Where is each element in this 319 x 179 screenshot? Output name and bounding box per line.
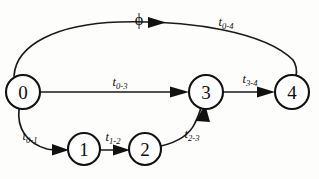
edge-label-1-2: t1-2 bbox=[106, 130, 122, 146]
edge-1-2-arrowhead bbox=[113, 145, 130, 156]
edge-label-3-4: t3-4 bbox=[243, 72, 259, 88]
edge-label-0-3: t0-3 bbox=[113, 75, 128, 91]
edge-label-0-4-sub: 0-4 bbox=[222, 21, 234, 31]
edge-3-4-arrowhead bbox=[257, 87, 275, 98]
edge-0-4-arrowhead bbox=[148, 17, 166, 28]
edge-0-1-arrowhead bbox=[52, 144, 69, 156]
node-3-label: 3 bbox=[201, 82, 211, 103]
node-4[interactable]: 4 bbox=[275, 75, 309, 109]
edge-1-2 bbox=[100, 145, 130, 156]
node-0-label: 0 bbox=[18, 82, 28, 103]
edge-0-1 bbox=[19, 109, 69, 156]
graph-svg: 0 1 2 3 4 t0-4 t0-3 t3-4 t0-1 bbox=[0, 0, 319, 179]
node-1-label: 1 bbox=[79, 139, 89, 160]
edge-label-0-1-sub: 0-1 bbox=[26, 135, 37, 145]
edge-label-3-4-sub: 3-4 bbox=[245, 78, 258, 88]
edge-label-0-4: t0-4 bbox=[219, 15, 235, 31]
edge-0-4 bbox=[14, 17, 297, 76]
edge-label-0-3-sub: 0-3 bbox=[116, 81, 127, 91]
edge-3-4 bbox=[223, 87, 275, 98]
edge-label-2-3-sub: 2-3 bbox=[188, 133, 199, 143]
edge-label-1-2-sub: 1-2 bbox=[109, 136, 121, 146]
edge-0-4-path bbox=[14, 22, 297, 76]
node-1[interactable]: 1 bbox=[68, 133, 100, 165]
edge-0-3-arrowhead bbox=[170, 87, 189, 98]
diagram-canvas: 0 1 2 3 4 t0-4 t0-3 t3-4 t0-1 bbox=[0, 0, 319, 179]
edge-label-0-1: t0-1 bbox=[23, 129, 38, 145]
node-0[interactable]: 0 bbox=[6, 75, 40, 109]
node-2[interactable]: 2 bbox=[129, 133, 161, 165]
phi-icon: ϕ bbox=[135, 11, 143, 29]
node-2-label: 2 bbox=[140, 139, 150, 160]
node-3[interactable]: 3 bbox=[189, 75, 223, 109]
node-4-label: 4 bbox=[287, 82, 297, 103]
